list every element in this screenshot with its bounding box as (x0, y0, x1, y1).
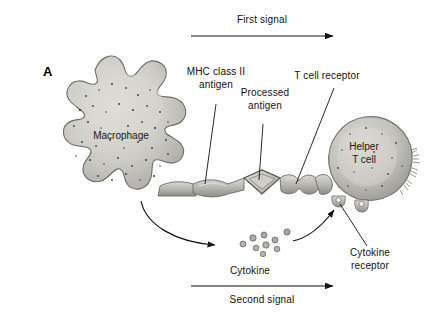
cytokine-receptor-label-line2: receptor (351, 260, 389, 272)
t-cell-receptor (280, 175, 319, 194)
cytokine-receptor-label-line1: Cytokine (350, 247, 390, 259)
synapse-connector (315, 175, 332, 195)
panel-letter: A (43, 64, 52, 79)
macrophage-membrane-ledge (158, 182, 196, 196)
helper-t-cell-label-line1: Helper (349, 141, 378, 154)
cytokine-label: Cytokine (230, 265, 270, 277)
macrophage-label: Macrophage (93, 130, 149, 143)
mhc-label-line1: MHC class II (187, 66, 245, 78)
mhc-label-line2: antigen (199, 79, 233, 91)
cytokine-molecules (240, 229, 290, 257)
mhc-leader-line (205, 104, 216, 184)
macrophage-cell (63, 56, 185, 189)
immunology-figure-panel-a: A First signal MHC class II antigen Proc… (0, 0, 434, 331)
second-signal-label: Second signal (230, 294, 295, 306)
tcr-leader-line (296, 88, 334, 184)
processed-antigen-label-line1: Processed (241, 87, 290, 99)
cytokine-release-arrow (141, 201, 215, 245)
helper-t-cell-label-line2: T cell (352, 154, 376, 167)
processed-antigen-label-line2: antigen (248, 100, 282, 112)
mhc-class-ii-antigen (193, 178, 244, 197)
immunological-synapse (158, 170, 332, 197)
first-signal-label: First signal (237, 14, 287, 26)
cytokine-binding-arrow (293, 210, 334, 241)
t-cell-receptor-label: T cell receptor (294, 70, 359, 82)
